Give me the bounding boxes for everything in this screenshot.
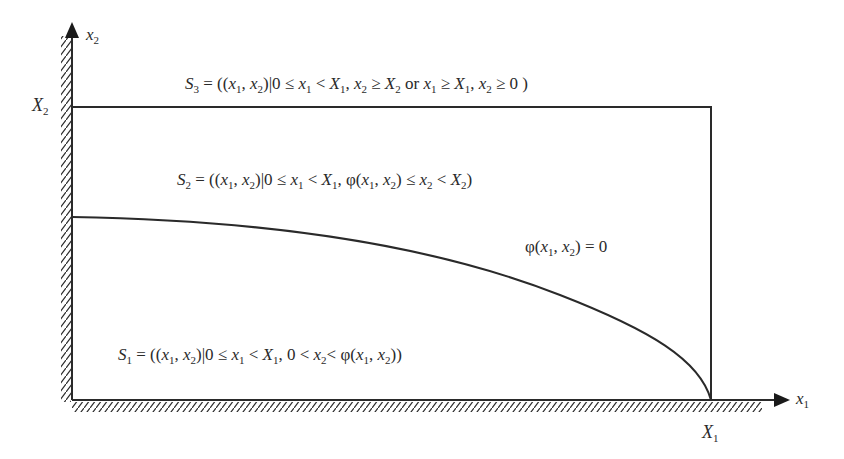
diagram-canvas bbox=[0, 0, 844, 459]
region-S2-label: S2 = ((x1, x2)|0 ≤ x1 < X1, φ(x1, x2) ≤ … bbox=[177, 171, 472, 188]
x-marker-X1: X1 bbox=[702, 423, 719, 441]
y-axis-hatching bbox=[61, 36, 71, 402]
region-S1-label: S1 = ((x1, x2)|0 ≤ x1 < X1, 0 < x2< φ(x1… bbox=[118, 346, 402, 363]
y-axis-arrow-icon bbox=[65, 22, 79, 38]
x-axis-hatching bbox=[72, 402, 762, 412]
x-axis-label: x1 bbox=[796, 390, 809, 407]
curve-label: φ(x1, x2) = 0 bbox=[525, 238, 607, 255]
region-S3-label: S3 = ((x1, x2)|0 ≤ x1 < X1, x2 ≥ X2 or x… bbox=[185, 75, 528, 92]
x-axis-arrow-icon bbox=[774, 393, 790, 407]
y-axis-label: x2 bbox=[86, 26, 99, 43]
switching-curve bbox=[72, 217, 711, 400]
y-marker-X2: X2 bbox=[32, 96, 49, 114]
